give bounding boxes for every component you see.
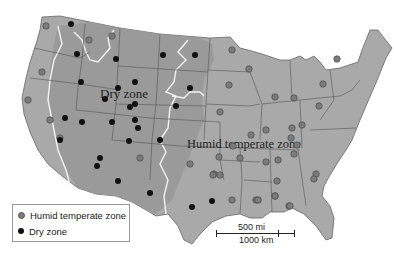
humid-zone-label: Humid temperate zone [187,137,301,151]
dry-station-dot [147,190,153,196]
dry-station-dot [187,85,193,91]
dry-station-dot [102,96,108,102]
dry-station-dot [132,101,138,107]
dry-station-dot [62,115,68,121]
dry-station-dot [68,21,74,27]
humid-station-dot [229,197,235,203]
humid-station-dot [291,151,297,157]
map-legend: Humid temperate zone Dry zone [12,204,130,242]
humid-station-dot [229,47,235,53]
humid-station-dot [299,122,305,128]
dry-station-dot [126,138,132,144]
humid-station-dot [43,23,49,29]
humid-station-dot [248,132,254,138]
humid-station-dot [230,143,236,149]
scale-tick [278,230,279,237]
dry-station-dot [115,178,121,184]
scale-miles-label: 500 mi [238,222,265,232]
scale-line [216,233,295,234]
humid-station-dot [287,203,293,209]
dry-station-dot [109,119,115,125]
humid-station-dot [320,81,326,87]
legend-label-dry: Dry zone [29,226,67,237]
humid-station-dot [255,197,261,203]
dry-station-dot [132,117,138,123]
humid-station-dot [294,142,300,148]
humid-station-dot [47,117,53,123]
humid-station-dot [274,178,280,184]
dry-station-dot [79,119,85,125]
dry-station-dot [94,163,100,169]
dry-station-dot [97,155,103,161]
humid-station-dot [311,176,317,182]
scale-tick [294,230,295,237]
dry-station-dot [157,137,163,143]
humid-station-dot [109,33,115,39]
humid-station-dot [210,172,216,178]
humid-station-dot [217,109,223,115]
dry-station-dot [132,79,138,85]
humid-station-dot [86,37,92,43]
humid-station-dot [263,159,269,165]
dry-station-dot [209,198,215,204]
humid-station-dot [289,125,295,131]
dry-station-dot [74,51,80,57]
scale-km-label: 1000 km [239,235,274,245]
humid-station-dot [216,154,222,160]
legend-item-dry: Dry zone [13,223,129,239]
dry-station-dot [57,137,63,143]
humid-station-dot [246,66,252,72]
humid-station-dot [291,95,297,101]
humid-station-dot [316,103,322,109]
legend-item-humid: Humid temperate zone [13,207,129,223]
humid-station-dot [275,157,281,163]
scale-bar: 500 mi 1000 km [216,222,300,252]
dry-dot-icon [18,228,24,234]
humid-station-dot [226,82,232,88]
dry-station-dot [192,52,198,58]
humid-dot-icon [18,212,25,219]
humid-station-dot [263,127,269,133]
dry-station-dot [113,56,119,62]
humid-station-dot [25,97,31,103]
scale-tick [216,230,217,237]
humid-station-dot [288,135,294,141]
humid-station-dot [137,155,143,161]
humid-station-dot [217,172,223,178]
humid-station-dot [39,69,45,75]
dry-station-dot [189,204,195,210]
humid-station-dot [334,56,340,62]
dry-station-dot [173,103,179,109]
dry-station-dot [127,104,133,110]
humid-station-dot [272,193,278,199]
humid-station-dot [272,94,278,100]
humid-station-dot [237,155,243,161]
legend-label-humid: Humid temperate zone [30,210,126,221]
dry-station-dot [160,52,166,58]
humid-station-dot [187,161,193,167]
dry-station-dot [135,125,141,131]
dry-station-dot [78,79,84,85]
dry-station-dot [115,85,121,91]
